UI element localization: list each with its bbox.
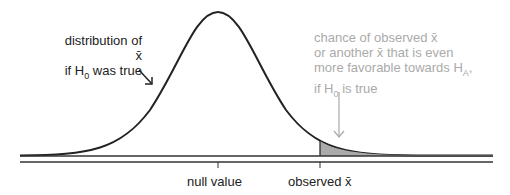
shaded-tail: [320, 141, 493, 156]
pvalue-line4: if H: [314, 81, 334, 96]
distribution-label: distribution of x̄ if H0 was true: [60, 33, 142, 84]
null-value-label: null value: [187, 174, 242, 189]
pvalue-line4-suffix: is true: [339, 81, 378, 96]
pvalue-line1: chance of observed x̄: [314, 30, 472, 45]
pvalue-annotation: chance of observed x̄ or another x̄ that…: [314, 30, 472, 101]
observed-label: observed x̄: [288, 174, 352, 189]
pvalue-line3-suffix: ,: [469, 60, 473, 75]
pvalue-line3: more favorable towards H: [314, 60, 463, 75]
pvalue-line2: or another x̄ that is even: [314, 45, 472, 60]
h0-suffix: was true: [89, 63, 142, 78]
h0-prefix: if H: [65, 63, 85, 78]
distribution-label-line1: distribution of x̄: [65, 33, 142, 63]
